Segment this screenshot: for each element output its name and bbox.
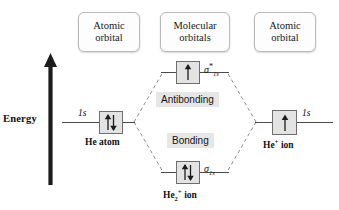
paired-electrons-icon: [101, 113, 121, 132]
header-right-line2: orbital: [271, 32, 298, 44]
header-molecular-orbitals: Molecular orbitals: [160, 12, 230, 52]
header-left-line2: orbital: [95, 32, 122, 44]
species-label-he-plus-ion: He+ ion: [263, 138, 294, 150]
header-atomic-orbital-left: Atomic orbital: [78, 12, 140, 52]
orbital-box-antibonding: [176, 61, 200, 84]
orbital-label-he-atom-1s: 1s: [78, 108, 86, 118]
header-right-line1: Atomic: [269, 20, 301, 32]
header-left-line1: Atomic: [93, 20, 125, 32]
single-electron-icon: [275, 113, 295, 133]
region-label-bonding: Bonding: [167, 133, 214, 148]
species-label-he2-plus-ion: He2+ ion: [163, 188, 197, 202]
paired-electrons-icon: [178, 163, 198, 182]
species-label-he-atom: He atom: [85, 137, 120, 147]
energy-up-arrow-icon: [44, 53, 57, 185]
sigma-label-antibonding: σ*1s: [204, 62, 219, 77]
orbital-box-he-plus-ion: [272, 110, 297, 135]
energy-axis-label: Energy: [3, 113, 37, 124]
region-label-antibonding: Antibonding: [156, 92, 219, 107]
orbital-label-he-plus-1s: 1s: [302, 108, 310, 118]
header-mid-line1: Molecular: [173, 20, 216, 32]
single-electron-icon: [178, 63, 198, 82]
sigma-label-bonding: σ1s: [204, 163, 215, 176]
header-mid-line2: orbitals: [179, 32, 211, 44]
orbital-box-he-atom: [99, 111, 123, 134]
orbital-box-bonding: [176, 161, 200, 184]
mo-diagram-he2-plus: Atomic orbital Molecular orbitals Atomic…: [0, 0, 339, 210]
header-atomic-orbital-right: Atomic orbital: [254, 12, 316, 52]
